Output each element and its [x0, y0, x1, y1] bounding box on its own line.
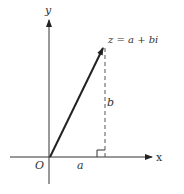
horizontal-component-label: a — [77, 159, 84, 172]
complex-plane-diagram: y x O a b z = a + bi — [0, 0, 184, 194]
x-axis-label: x — [156, 151, 163, 164]
vector-z — [50, 48, 103, 157]
right-angle-marker — [97, 150, 105, 157]
vertical-component-label: b — [107, 96, 114, 109]
origin-label: O — [35, 159, 44, 172]
y-axis-label: y — [44, 4, 52, 17]
point-z-label: z = a + bi — [107, 34, 158, 45]
